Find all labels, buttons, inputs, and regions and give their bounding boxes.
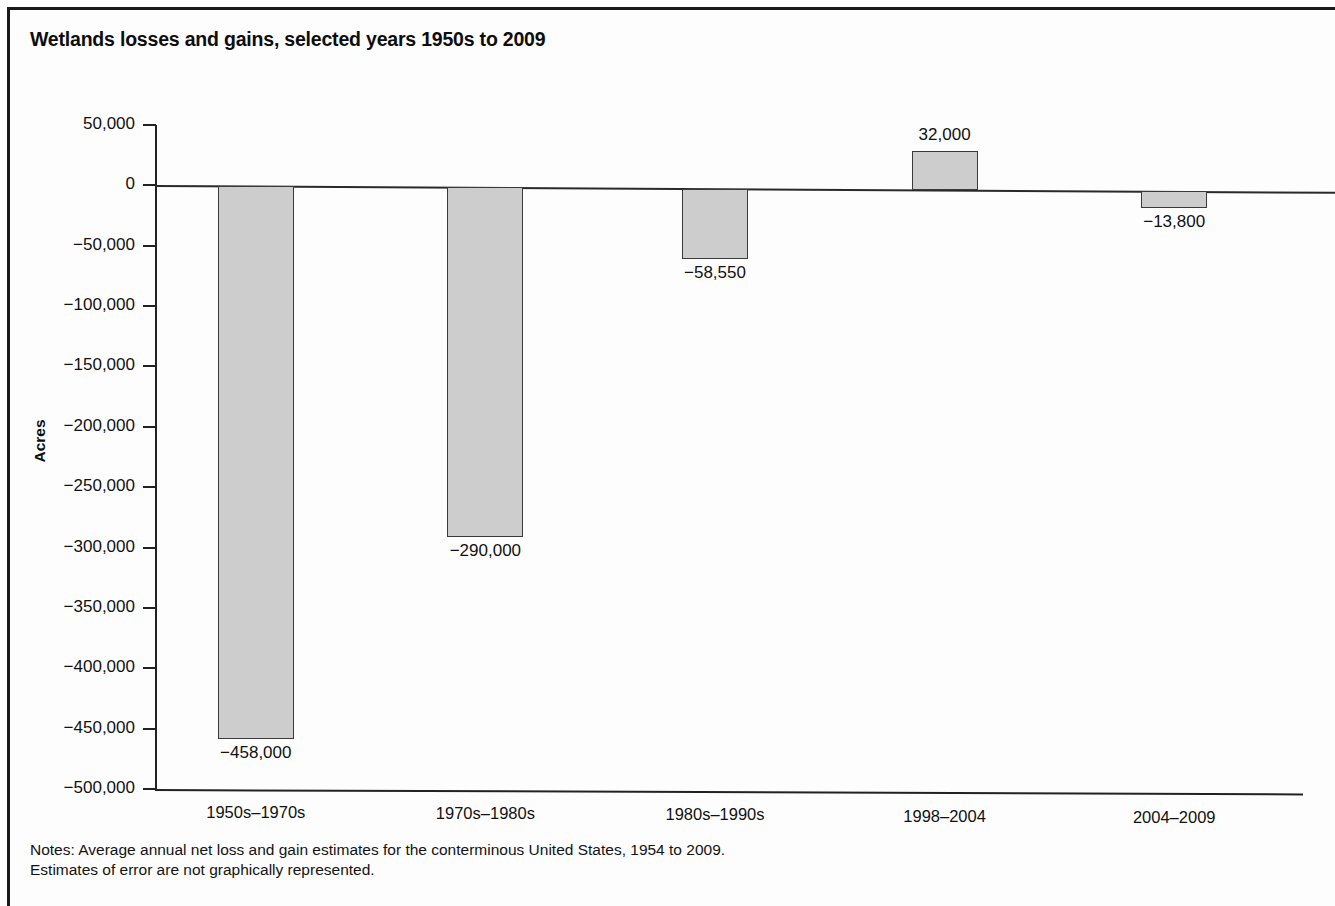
figure-notes-line-1: Notes: Average annual net loss and gain … [30,840,725,860]
bar-value-label: 32,000 [860,125,1030,145]
bar-value-label: −458,000 [171,743,341,763]
y-axis-tick [143,667,156,669]
bar-value-label: −290,000 [400,541,570,561]
x-axis-tick-label: 1998–2004 [835,807,1055,826]
bar [682,189,748,260]
y-axis-tick [143,365,156,367]
y-axis-tick [143,426,156,428]
x-axis-tick-label: 1970s–1980s [375,804,595,823]
y-axis-tick [143,245,156,247]
y-axis-tick-label-text: 0 [25,174,135,194]
bar [218,186,294,739]
y-axis-tick-label: −200,000 [15,416,135,436]
y-axis-tick-label-text: −450,000 [25,718,135,738]
bar [912,151,978,190]
x-axis-tick-label: 2004–2009 [1064,808,1284,827]
y-axis-tick-label-text: 50,000 [25,114,135,134]
y-axis-tick-label-text: −150,000 [25,355,135,375]
y-axis-tick-label-text: −500,000 [25,778,135,798]
y-axis-tick [143,788,156,790]
y-axis-tick-label: −300,000 [15,537,135,557]
x-axis-tick-label: 1950s–1970s [146,803,366,822]
y-axis-title: Acres [31,396,49,486]
y-axis-tick-label-text: −50,000 [25,235,135,255]
figure-notes-line-2: Estimates of error are not graphically r… [30,860,725,880]
y-axis-tick [143,124,156,126]
y-axis-tick-label: −150,000 [15,355,135,375]
x-axis-line [155,789,1303,795]
y-axis-tick-label-text: −300,000 [25,537,135,557]
x-axis-tick-label: 1980s–1990s [605,805,825,824]
y-axis-tick-label: −350,000 [15,597,135,617]
figure-notes: Notes: Average annual net loss and gain … [30,840,725,880]
y-axis-tick-label: −250,000 [15,476,135,496]
y-axis-tick-label: −400,000 [15,657,135,677]
y-axis-tick-label: −50,000 [15,235,135,255]
bar-chart: Acres 50,0000−50,000−100,000−150,000−200… [0,0,1335,906]
bar-value-label: −58,550 [630,263,800,283]
y-axis-tick-label: −100,000 [15,295,135,315]
scanned-page: Wetlands losses and gains, selected year… [0,0,1335,906]
bar-value-label: −13,800 [1089,212,1259,232]
y-axis-tick [143,728,156,730]
y-axis-tick-label: 50,000 [15,114,135,134]
y-axis-tick-label-text: −250,000 [25,476,135,496]
y-axis-line [155,125,157,791]
y-axis-tick-label: −500,000 [15,778,135,798]
y-axis-tick [143,305,156,307]
y-axis-tick [143,547,156,549]
y-axis-tick [143,607,156,609]
bar [1141,191,1207,208]
y-axis-tick-label-text: −100,000 [25,295,135,315]
y-axis-tick-label-text: −400,000 [25,657,135,677]
y-axis-tick-label-text: −200,000 [25,416,135,436]
y-axis-tick-label: −450,000 [15,718,135,738]
y-axis-tick [143,486,156,488]
y-axis-tick-label-text: −350,000 [25,597,135,617]
y-axis-tick [143,184,156,186]
y-axis-tick-label: 0 [15,174,135,194]
bar [447,187,523,537]
